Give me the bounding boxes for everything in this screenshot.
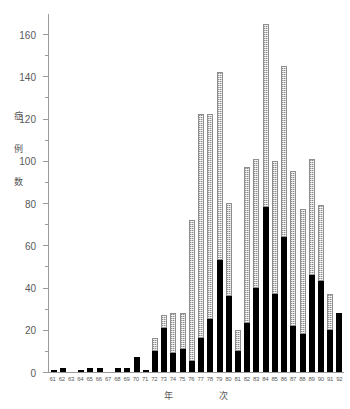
bar-65[interactable]: [87, 368, 93, 372]
bar-slot-77[interactable]: [197, 14, 206, 372]
bar-slot-78[interactable]: [206, 14, 215, 372]
bar-slot-91[interactable]: [326, 14, 335, 372]
x-tick-label-64: 64: [76, 376, 85, 382]
bar-81[interactable]: [235, 330, 241, 372]
bar-segment-upper-88: [300, 209, 306, 334]
bar-89[interactable]: [309, 159, 315, 372]
x-tick-label-92: 92: [335, 376, 344, 382]
bar-slot-74[interactable]: [169, 14, 178, 372]
bar-slot-92[interactable]: [335, 14, 344, 372]
y-tick-label-100: 100: [19, 156, 36, 167]
x-tick-label-72: 72: [150, 376, 159, 382]
bar-slot-75[interactable]: [178, 14, 187, 372]
bar-slot-72[interactable]: [150, 14, 159, 372]
x-axis-tick-labels: 6162636465666768697071727374757677787980…: [48, 376, 344, 382]
bar-92[interactable]: [336, 313, 342, 372]
bar-slot-61[interactable]: [49, 14, 58, 372]
x-tick-label-71: 71: [141, 376, 150, 382]
bar-segment-upper-82: [244, 167, 250, 323]
bar-80[interactable]: [226, 203, 232, 372]
bar-86[interactable]: [281, 66, 287, 372]
y-tick-label-40: 40: [25, 283, 36, 294]
bar-slot-66[interactable]: [95, 14, 104, 372]
bar-slot-70[interactable]: [132, 14, 141, 372]
bar-68[interactable]: [115, 368, 121, 372]
bar-61[interactable]: [51, 370, 57, 372]
x-tick-label-76: 76: [187, 376, 196, 382]
bar-slot-65[interactable]: [86, 14, 95, 372]
bar-slot-86[interactable]: [279, 14, 288, 372]
bar-slot-84[interactable]: [261, 14, 270, 372]
bar-segment-lower-92: [336, 313, 342, 372]
bar-76[interactable]: [189, 220, 195, 372]
bar-slot-83[interactable]: [252, 14, 261, 372]
bar-slot-89[interactable]: [307, 14, 316, 372]
bar-slot-68[interactable]: [114, 14, 123, 372]
bar-82[interactable]: [244, 167, 250, 372]
bar-segment-upper-78: [207, 114, 213, 319]
bar-segment-lower-82: [244, 323, 250, 372]
bar-slot-87[interactable]: [289, 14, 298, 372]
bar-segment-upper-83: [253, 159, 259, 288]
bar-77[interactable]: [198, 114, 204, 372]
bar-69[interactable]: [124, 368, 130, 372]
x-tick-label-79: 79: [215, 376, 224, 382]
y-tick-minor-70: [45, 224, 48, 225]
bar-slot-80[interactable]: [224, 14, 233, 372]
plot-area: 020406080100120140160: [48, 14, 344, 373]
bar-segment-lower-71: [143, 370, 149, 372]
bar-slot-79[interactable]: [215, 14, 224, 372]
bar-segment-lower-79: [217, 260, 223, 372]
bar-slot-76[interactable]: [187, 14, 196, 372]
bar-segment-upper-81: [235, 330, 241, 351]
bar-segment-upper-89: [309, 159, 315, 275]
bar-64[interactable]: [78, 370, 84, 372]
x-axis-title: 年 次: [48, 389, 344, 402]
bar-71[interactable]: [143, 370, 149, 372]
bar-90[interactable]: [318, 205, 324, 372]
bar-85[interactable]: [272, 161, 278, 372]
bar-slot-88[interactable]: [298, 14, 307, 372]
bar-slot-67[interactable]: [104, 14, 113, 372]
y-tick-label-160: 160: [19, 29, 36, 40]
bar-70[interactable]: [134, 357, 140, 372]
bar-segment-lower-77: [198, 338, 204, 372]
bar-87[interactable]: [290, 171, 296, 372]
bar-segment-lower-64: [78, 370, 84, 372]
bar-slot-64[interactable]: [77, 14, 86, 372]
bar-72[interactable]: [152, 338, 158, 372]
bar-78[interactable]: [207, 114, 213, 372]
bar-slot-82[interactable]: [243, 14, 252, 372]
bar-79[interactable]: [217, 72, 223, 372]
bar-segment-upper-74: [170, 313, 176, 353]
y-tick-140: 140: [43, 76, 48, 77]
bar-slot-69[interactable]: [123, 14, 132, 372]
bar-segment-lower-91: [327, 330, 333, 372]
bar-slot-85[interactable]: [270, 14, 279, 372]
y-tick-label-60: 60: [25, 240, 36, 251]
bar-88[interactable]: [300, 209, 306, 372]
bar-segment-lower-66: [97, 368, 103, 372]
x-tick-label-81: 81: [233, 376, 242, 382]
y-tick-minor-130: [45, 97, 48, 98]
x-tick-label-73: 73: [159, 376, 168, 382]
bar-73[interactable]: [161, 315, 167, 372]
bar-slot-62[interactable]: [58, 14, 67, 372]
x-tick-label-63: 63: [67, 376, 76, 382]
bar-84[interactable]: [263, 24, 269, 372]
bar-segment-lower-65: [87, 368, 93, 372]
bar-segment-lower-84: [263, 207, 269, 372]
bar-segment-lower-81: [235, 351, 241, 372]
bar-62[interactable]: [60, 368, 66, 372]
bar-slot-81[interactable]: [233, 14, 242, 372]
bar-slot-90[interactable]: [316, 14, 325, 372]
bar-75[interactable]: [180, 313, 186, 372]
bar-66[interactable]: [97, 368, 103, 372]
bar-slot-73[interactable]: [160, 14, 169, 372]
bar-slot-71[interactable]: [141, 14, 150, 372]
bar-83[interactable]: [253, 159, 259, 372]
bar-74[interactable]: [170, 313, 176, 372]
x-tick-label-83: 83: [252, 376, 261, 382]
bar-91[interactable]: [327, 294, 333, 372]
bar-slot-63[interactable]: [67, 14, 76, 372]
